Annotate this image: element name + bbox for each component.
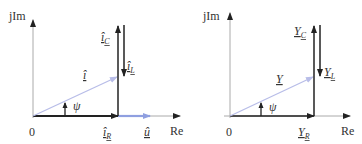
resistive-current-label: îR xyxy=(103,125,111,141)
svg-text:îL: îL xyxy=(127,59,135,75)
phasor-diagrams: jIm Re 0 ψ îC îL î îR û jIm Re 0 xyxy=(0,0,362,144)
inductive-current-label: îL xyxy=(127,59,135,75)
svg-text:YL: YL xyxy=(324,65,336,81)
angle-label: ψ xyxy=(73,99,81,113)
total-current-label: î xyxy=(83,68,87,82)
admittance-label: Y xyxy=(276,72,284,86)
current-phasor-diagram: jIm Re 0 ψ îC îL î îR û xyxy=(8,9,183,141)
angle-label: ψ xyxy=(269,100,277,114)
origin-label: 0 xyxy=(29,125,35,139)
capacitive-susceptance-label: YC xyxy=(294,24,307,40)
conductance-label: YR xyxy=(298,125,310,141)
svg-text:YR: YR xyxy=(298,125,310,141)
x-axis-label: Re xyxy=(170,124,183,138)
y-axis-label: jIm xyxy=(202,9,220,23)
voltage-label: û xyxy=(144,125,150,139)
x-axis-label: Re xyxy=(341,124,354,138)
inductive-susceptance-label: YL xyxy=(324,65,336,81)
origin-label: 0 xyxy=(226,125,232,139)
svg-text:îR: îR xyxy=(103,125,111,141)
y-axis-label: jIm xyxy=(8,9,26,23)
svg-text:îC: îC xyxy=(101,30,110,46)
svg-text:YC: YC xyxy=(294,24,307,40)
admittance-phasor-diagram: jIm Re 0 ψ YC YL Y YR xyxy=(202,9,354,141)
capacitive-current-label: îC xyxy=(101,30,110,46)
